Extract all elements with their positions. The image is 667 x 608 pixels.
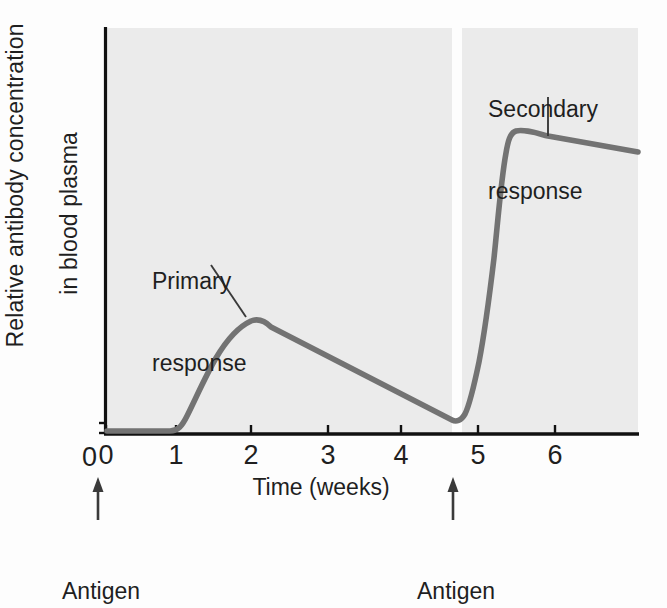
x-tick-label-1: 1 (168, 440, 183, 471)
x-axis-tick-labels: 0 1 2 3 4 5 6 (0, 440, 667, 474)
x-axis-title: Time (weeks) (186, 474, 456, 501)
x-tick-label-5: 5 (470, 440, 485, 471)
antibody-response-chart: Relative antibody concentration in blood… (0, 0, 667, 608)
y-axis-title: Relative antibody concentration in blood… (0, 53, 137, 373)
x-tick-label-2: 2 (243, 440, 258, 471)
x-tick-label-6: 6 (547, 440, 562, 471)
antigen-injected-second-line1: Antigen (417, 578, 496, 605)
antigen-injected-first-label: Antigen injected (62, 524, 141, 608)
primary-response-annotation: Primary response (152, 214, 247, 431)
x-tick-label-0: 0 (98, 440, 113, 471)
primary-response-line1: Primary (152, 268, 247, 295)
secondary-response-line2: response (488, 178, 598, 205)
x-tick-label-3: 3 (320, 440, 335, 471)
y-tick-label-zero: 0 (82, 442, 97, 474)
antigen-injected-first-line1: Antigen (62, 578, 141, 605)
secondary-response-line1: Secondary (488, 96, 598, 123)
secondary-response-annotation: Secondary response (488, 42, 598, 259)
primary-response-line2: response (152, 350, 247, 377)
x-tick-label-4: 4 (393, 440, 408, 471)
antigen-injected-first-arrow-icon (93, 477, 104, 520)
y-axis-title-line2: in blood plasma (56, 53, 83, 373)
antigen-injected-second-label: Antigen injected (417, 524, 496, 608)
y-axis-title-line1: Relative antibody concentration (2, 23, 28, 347)
